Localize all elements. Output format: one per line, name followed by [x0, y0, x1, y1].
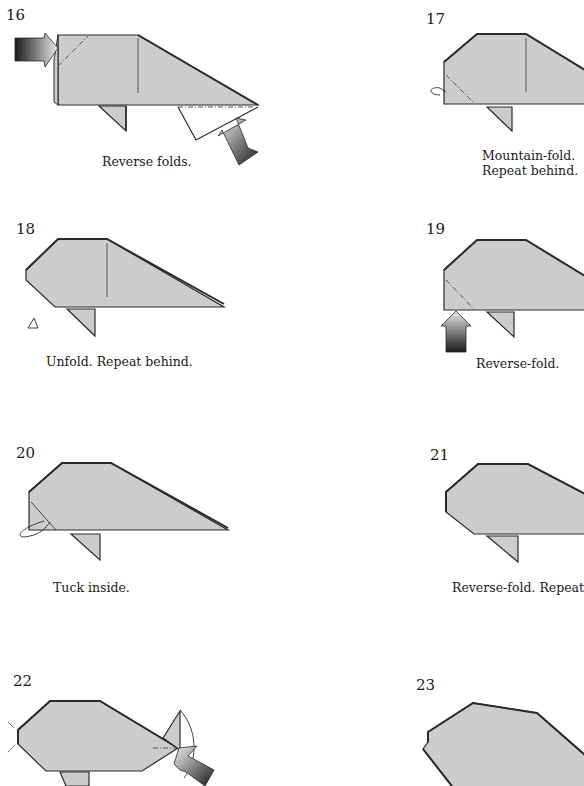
step-21: 21 Reverse-fold. Repeat — [410, 430, 579, 610]
step-19-diagram — [410, 210, 579, 380]
push-arrow-icon — [15, 33, 58, 67]
step-17: 17 Mountain-fold. Repeat behind. — [410, 0, 579, 200]
step-caption: Reverse-fold. — [476, 356, 559, 372]
step-caption-line2: Repeat behind. — [482, 163, 578, 179]
step-20: 20 Tuck inside. — [0, 430, 260, 610]
step-caption: Mountain-fold. — [482, 148, 575, 164]
step-22-diagram — [0, 660, 260, 786]
step-20-diagram — [0, 430, 260, 610]
step-23-diagram — [400, 660, 579, 786]
step-18: 18 Unfold. Repeat behind. — [0, 210, 260, 380]
push-arrow-icon — [441, 311, 471, 352]
step-19: 19 Reverse-fold. — [410, 210, 579, 380]
step-22: 22 — [0, 660, 260, 786]
step-23: 23 — [400, 660, 579, 786]
step-caption: Reverse folds. — [102, 154, 192, 170]
step-16: 16 Reverse folds. — [0, 0, 290, 200]
step-caption: Unfold. Repeat behind. — [46, 354, 193, 370]
step-caption: Tuck inside. — [53, 580, 130, 596]
step-caption: Reverse-fold. Repeat — [452, 580, 584, 596]
step-16-diagram — [0, 0, 290, 200]
